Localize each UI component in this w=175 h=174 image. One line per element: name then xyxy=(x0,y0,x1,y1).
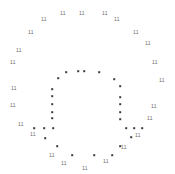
scatter-plot-figure: 1111111111111111111111111111111111111111… xyxy=(0,0,175,174)
data-point-marker xyxy=(43,127,45,129)
data-point-marker xyxy=(119,111,121,113)
data-point-marker xyxy=(65,71,67,73)
data-point-marker xyxy=(44,137,46,139)
data-point-marker xyxy=(111,154,113,156)
data-point-label: 11 xyxy=(61,161,67,166)
data-point-label: 11 xyxy=(10,60,16,65)
data-point-marker xyxy=(113,78,115,80)
data-point-label: 11 xyxy=(79,11,85,16)
data-point-label: 11 xyxy=(133,30,139,35)
data-point-marker xyxy=(119,103,121,105)
data-point-marker xyxy=(52,127,54,129)
data-point-marker xyxy=(119,96,121,98)
data-point-marker xyxy=(83,70,85,72)
data-point-label: 11 xyxy=(102,11,108,16)
data-point-marker xyxy=(119,118,121,120)
data-point-label: 11 xyxy=(151,104,157,109)
data-point-label: 11 xyxy=(121,145,127,150)
data-point-marker xyxy=(33,127,35,129)
data-point-label: 11 xyxy=(135,133,141,138)
data-point-label: 11 xyxy=(28,30,34,35)
data-point-label: 11 xyxy=(114,17,120,22)
data-point-marker xyxy=(125,127,127,129)
data-point-label: 11 xyxy=(82,166,88,171)
data-point-label: 11 xyxy=(41,17,47,22)
data-point-marker xyxy=(71,154,73,156)
data-point-label: 11 xyxy=(10,103,16,108)
data-point-marker xyxy=(141,127,143,129)
data-point-label: 11 xyxy=(16,48,22,53)
data-point-marker xyxy=(93,154,95,156)
data-point-marker xyxy=(119,85,121,87)
data-point-marker xyxy=(98,71,100,73)
data-point-marker xyxy=(130,136,132,138)
data-point-marker xyxy=(51,95,53,97)
data-point-marker xyxy=(51,103,53,105)
data-point-label: 11 xyxy=(159,78,165,83)
data-point-marker xyxy=(133,127,135,129)
data-point-label: 11 xyxy=(60,11,66,16)
data-point-label: 11 xyxy=(30,132,36,137)
data-point-marker xyxy=(56,145,58,147)
data-point-label: 11 xyxy=(152,60,158,65)
data-point-label: 11 xyxy=(103,159,109,164)
data-point-marker xyxy=(57,77,59,79)
data-point-marker xyxy=(51,117,53,119)
data-point-label: 11 xyxy=(11,86,17,91)
data-point-marker xyxy=(119,145,121,147)
data-point-marker xyxy=(77,70,79,72)
plot-area: 1111111111111111111111111111111111111111… xyxy=(0,0,175,174)
data-point-marker xyxy=(51,111,53,113)
data-point-label: 11 xyxy=(145,41,151,46)
data-point-label: 11 xyxy=(49,153,55,158)
data-point-marker xyxy=(51,88,53,90)
data-point-label: 11 xyxy=(18,122,24,127)
data-point-label: 11 xyxy=(147,116,153,121)
